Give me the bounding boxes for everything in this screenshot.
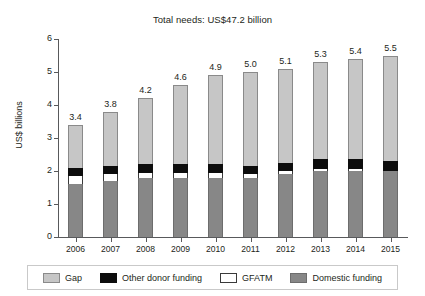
x-tick-mark (111, 238, 112, 242)
bar-segment-gap (243, 72, 258, 166)
bar-value-label: 3.8 (104, 99, 117, 109)
bar-segment-domestic-funding (138, 178, 153, 237)
bar-segment-gap (138, 98, 153, 164)
bar-segment-gfatm (68, 176, 83, 184)
bar-segment-domestic-funding (68, 184, 83, 237)
bar-value-label: 5.1 (279, 56, 292, 66)
bar-segment-other-donor-funding (243, 166, 258, 174)
y-tick-mark (54, 72, 58, 73)
bar-segment-other-donor-funding (348, 159, 363, 169)
bar-segment-other-donor-funding (208, 164, 223, 172)
bar-group[interactable]: 5.0 (243, 39, 258, 237)
x-tick-label: 2013 (301, 244, 341, 254)
bar-segment-other-donor-funding (278, 163, 293, 171)
legend-item[interactable]: GFATM (220, 273, 272, 283)
bar-segment-domestic-funding (243, 178, 258, 237)
y-tick-mark (54, 171, 58, 172)
bar-segment-domestic-funding (348, 171, 363, 237)
bar-segment-gap (173, 85, 188, 164)
bar-segment-other-donor-funding (173, 164, 188, 172)
y-tick-mark (54, 39, 58, 40)
legend-item-label: Other donor funding (122, 273, 202, 283)
bar-value-label: 5.3 (314, 49, 327, 59)
other-donor-swatch (100, 273, 117, 283)
bar-segment-gfatm (103, 174, 118, 181)
x-tick-label: 2006 (56, 244, 96, 254)
bar-segment-domestic-funding (278, 174, 293, 237)
y-tick-label: 6 (47, 33, 52, 44)
stacked-bar[interactable] (208, 75, 223, 237)
y-tick-mark (54, 105, 58, 106)
y-axis-label: US$ billions (14, 80, 24, 170)
x-tick-label: 2014 (336, 244, 376, 254)
bar-group[interactable]: 5.5 (383, 39, 398, 237)
chart-legend: GapOther donor fundingGFATMDomestic fund… (27, 265, 398, 290)
stacked-bar[interactable] (278, 69, 293, 237)
x-tick-label: 2007 (91, 244, 131, 254)
bar-segment-domestic-funding (103, 181, 118, 237)
plot-area: 0123456 3.420063.820074.220084.620094.92… (58, 39, 408, 237)
bar-value-label: 4.2 (139, 85, 152, 95)
stacked-bar[interactable] (383, 56, 398, 238)
bar-segment-gap (383, 56, 398, 162)
y-tick-mark (54, 138, 58, 139)
domestic-swatch (290, 273, 307, 283)
bar-segment-gap (278, 69, 293, 163)
y-tick-mark (54, 204, 58, 205)
bar-segment-domestic-funding (173, 178, 188, 237)
x-tick-label: 2012 (266, 244, 306, 254)
bar-segment-gap (313, 62, 328, 159)
x-tick-label: 2009 (161, 244, 201, 254)
bar-segment-other-donor-funding (103, 166, 118, 174)
stacked-bar[interactable] (313, 62, 328, 237)
bar-segment-domestic-funding (383, 171, 398, 237)
bar-group[interactable]: 4.6 (173, 39, 188, 237)
x-tick-label: 2011 (231, 244, 271, 254)
x-tick-label: 2015 (371, 244, 411, 254)
legend-item[interactable]: Domestic funding (290, 273, 382, 283)
bar-value-label: 4.6 (174, 72, 187, 82)
legend-item-label: GFATM (242, 273, 272, 283)
bar-segment-gap (68, 125, 83, 168)
y-tick-label: 1 (47, 198, 52, 209)
stacked-bar[interactable] (138, 98, 153, 237)
x-tick-mark (216, 238, 217, 242)
legend-item[interactable]: Gap (43, 273, 82, 283)
stacked-bar[interactable] (103, 112, 118, 237)
y-tick-label: 0 (47, 231, 52, 242)
y-tick-label: 2 (47, 165, 52, 176)
stacked-bar[interactable] (68, 125, 83, 237)
x-tick-mark (181, 238, 182, 242)
chart-figure: Total needs: US$47.2 billion US$ billion… (0, 0, 425, 296)
y-tick-label: 3 (47, 132, 52, 143)
bar-group[interactable]: 4.2 (138, 39, 153, 237)
x-tick-mark (286, 238, 287, 242)
legend-item-label: Gap (65, 273, 82, 283)
y-tick-label: 4 (47, 99, 52, 110)
bar-value-label: 5.0 (244, 59, 257, 69)
y-tick-mark (54, 237, 58, 238)
bar-group[interactable]: 5.1 (278, 39, 293, 237)
bar-group[interactable]: 3.4 (68, 39, 83, 237)
bar-segment-domestic-funding (313, 171, 328, 237)
x-tick-mark (356, 238, 357, 242)
bar-value-label: 4.9 (209, 62, 222, 72)
bar-group[interactable]: 3.8 (103, 39, 118, 237)
bar-value-label: 5.4 (349, 46, 362, 56)
x-tick-label: 2008 (126, 244, 166, 254)
bar-segment-gap (348, 59, 363, 160)
x-tick-mark (321, 238, 322, 242)
stacked-bar[interactable] (243, 72, 258, 237)
bar-segment-domestic-funding (208, 178, 223, 237)
legend-item[interactable]: Other donor funding (100, 273, 202, 283)
bar-value-label: 3.4 (69, 112, 82, 122)
stacked-bar[interactable] (173, 85, 188, 237)
bar-group[interactable]: 5.4 (348, 39, 363, 237)
bar-segment-gap (103, 112, 118, 166)
legend-item-label: Domestic funding (312, 273, 382, 283)
stacked-bar[interactable] (348, 59, 363, 237)
bar-value-label: 5.5 (384, 43, 397, 53)
bar-group[interactable]: 5.3 (313, 39, 328, 237)
bar-group[interactable]: 4.9 (208, 39, 223, 237)
bar-segment-other-donor-funding (68, 168, 83, 176)
